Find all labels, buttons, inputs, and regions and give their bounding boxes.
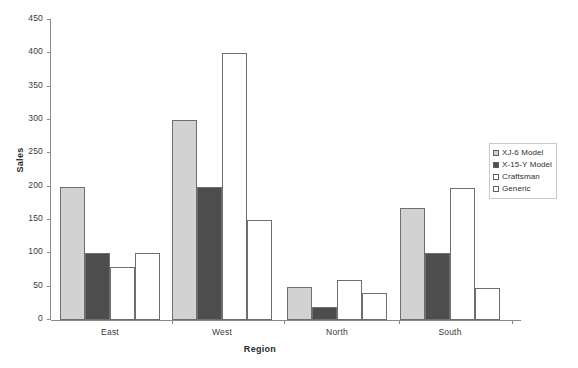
y-tick-label: 400 [28, 46, 43, 56]
y-tick-label: 450 [28, 13, 43, 23]
plot-area [51, 20, 470, 320]
y-tick-label: 100 [28, 246, 43, 256]
bar [222, 53, 247, 320]
bar [312, 307, 337, 320]
bar [287, 287, 312, 320]
legend-item[interactable]: Craftsman [493, 171, 552, 183]
legend-swatch-icon [493, 162, 499, 168]
legend-item[interactable]: XJ-6 Model [493, 147, 552, 159]
y-tick-label: 250 [28, 146, 43, 156]
bar [425, 253, 450, 320]
bar [110, 267, 135, 320]
x-axis-title: Region [0, 344, 520, 354]
legend-swatch-icon [493, 150, 499, 156]
y-tick-label: 0 [38, 313, 43, 323]
x-axis-line [51, 320, 521, 321]
bar [400, 208, 425, 320]
x-category-label: West [182, 327, 262, 337]
bar [60, 187, 85, 320]
y-axis-title: Sales [15, 130, 25, 190]
legend-label: X-15-Y Model [502, 159, 552, 171]
legend-swatch-icon [493, 186, 499, 192]
bar [362, 293, 387, 320]
bar [450, 188, 475, 320]
x-category-label: East [70, 327, 150, 337]
x-tick-mark [399, 320, 400, 324]
x-tick-mark [512, 320, 513, 324]
y-tick-label: 300 [28, 113, 43, 123]
bar [135, 253, 160, 320]
y-tick-label: 150 [28, 213, 43, 223]
bar [247, 220, 272, 320]
bar [337, 280, 362, 320]
legend-item[interactable]: X-15-Y Model [493, 159, 552, 171]
bar [172, 120, 197, 320]
bar [85, 253, 110, 320]
legend-item[interactable]: Generic [493, 183, 552, 195]
bar [197, 187, 222, 320]
y-tick-label: 50 [33, 280, 43, 290]
bar-chart: 050100150200250300350400450 EastWestNort… [0, 0, 578, 368]
chart-legend: XJ-6 ModelX-15-Y ModelCraftsmanGeneric [489, 143, 557, 199]
x-category-label: North [297, 327, 377, 337]
x-tick-mark [172, 320, 173, 324]
legend-label: Generic [502, 183, 531, 195]
y-tick-label: 200 [28, 180, 43, 190]
legend-swatch-icon [493, 174, 499, 180]
y-tick-label: 350 [28, 80, 43, 90]
legend-label: XJ-6 Model [502, 147, 543, 159]
legend-label: Craftsman [502, 171, 540, 183]
bar [475, 288, 500, 320]
x-category-label: South [410, 327, 490, 337]
x-tick-mark [284, 320, 285, 324]
